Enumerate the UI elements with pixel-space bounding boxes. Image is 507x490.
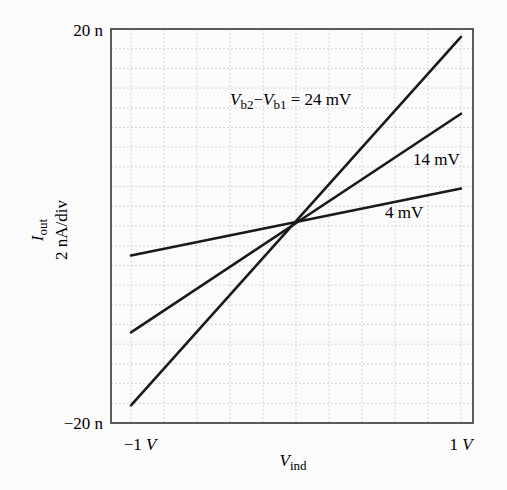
- x-tick-left: −1 V: [124, 435, 159, 454]
- y-axis-label: Iout: [28, 218, 50, 242]
- x-tick-right: 1 V: [449, 435, 475, 454]
- chart: 20 n −20 n −1 V 1 V Vind Iout 2 nA/div V…: [0, 0, 507, 490]
- y-tick-bottom: −20 n: [64, 414, 104, 433]
- y-tick-top: 20 n: [73, 21, 103, 40]
- svg-text:Iout: Iout: [28, 218, 50, 242]
- annotation-4mv: 4 mV: [385, 203, 424, 222]
- y-axis-scale-label: 2 nA/div: [52, 200, 71, 260]
- annotation-24mv: Vb2−Vb1 = 24 mV: [230, 90, 352, 112]
- x-axis-label: Vind: [279, 451, 307, 473]
- svg-text:2 nA/div: 2 nA/div: [52, 200, 71, 260]
- annotation-14mv: 14 mV: [413, 150, 460, 169]
